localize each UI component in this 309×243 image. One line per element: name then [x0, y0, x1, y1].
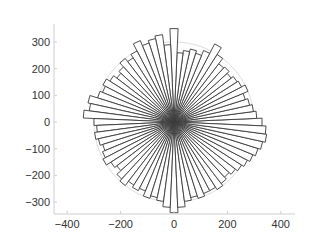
x-tick-label: 0 [171, 218, 177, 230]
y-tick-label: 0 [44, 116, 50, 128]
y-tick-label: −100 [25, 143, 50, 155]
y-tick-label: 300 [32, 36, 50, 48]
x-tick-label: −200 [108, 218, 133, 230]
y-axis-ticks: 3002001000−100−200−300 [25, 36, 57, 208]
y-tick-label: 200 [32, 63, 50, 75]
y-tick-label: −300 [25, 196, 50, 208]
x-tick-label: 400 [272, 218, 290, 230]
y-tick-label: −200 [25, 169, 50, 181]
y-tick-label: 100 [32, 89, 50, 101]
x-tick-label: −400 [55, 218, 80, 230]
plot-area [83, 29, 266, 213]
x-tick-label: 200 [218, 218, 236, 230]
rose-histogram-chart: 3002001000−100−200−300 −400−2000200400 [0, 0, 309, 243]
bars-group [83, 29, 266, 213]
